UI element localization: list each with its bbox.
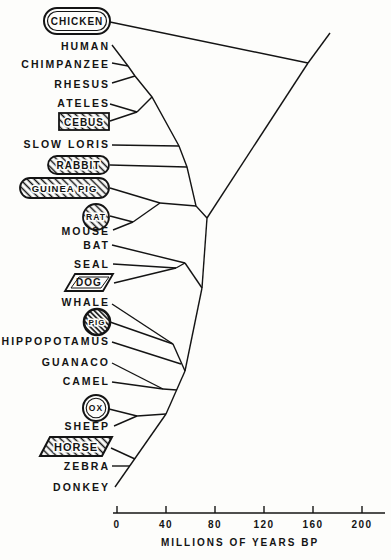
taxon-label-pig: PIG xyxy=(89,318,106,327)
branch-dog xyxy=(114,268,176,283)
taxon-label-horse: HORSE xyxy=(54,441,98,453)
branch-carnivore-node xyxy=(185,263,202,288)
branch-camelid-node xyxy=(163,389,177,390)
branch-seal xyxy=(113,264,176,268)
taxon-label-slow-loris: SLOW LORIS xyxy=(24,138,111,150)
time-axis: 0 40 80 120 160 200 MILLIONS OF YEARS BP xyxy=(113,506,385,548)
branch-mouse xyxy=(113,222,133,230)
taxon-label-hippopotamus: HIPPOPOTAMUS xyxy=(2,335,110,347)
taxon-label-ateles: ATELES xyxy=(57,97,110,109)
taxon-label-rhesus: RHESUS xyxy=(54,78,110,90)
axis-tick-labels: 0 40 80 120 160 200 xyxy=(113,519,372,530)
tick-label-200: 200 xyxy=(351,519,372,530)
branch-guinea-pig xyxy=(110,188,160,203)
axis-ticks xyxy=(117,506,362,513)
taxon-label-chimpanzee: CHIMPANZEE xyxy=(21,58,110,70)
tree-canvas: CHICKEN HUMAN CHIMPANZEE RHESUS ATELES C… xyxy=(0,0,391,560)
branch-root-stub xyxy=(308,33,330,63)
taxon-label-whale: WHALE xyxy=(62,296,111,308)
branch-pig xyxy=(110,322,173,344)
taxon-label-camel: CAMEL xyxy=(63,375,110,387)
taxon-label-cebus: CEBUS xyxy=(64,117,104,128)
taxon-label-guinea-pig: GUINEA PIG xyxy=(32,183,98,194)
branch-ox xyxy=(109,409,137,416)
branch-sheep xyxy=(114,416,137,426)
branch-chicken xyxy=(110,22,308,63)
tick-label-80: 80 xyxy=(208,519,222,530)
taxon-label-ox: OX xyxy=(89,403,103,413)
branch-bat xyxy=(112,245,185,263)
phylogenetic-tree-figure: CHICKEN HUMAN CHIMPANZEE RHESUS ATELES C… xyxy=(0,0,391,560)
tick-label-0: 0 xyxy=(113,519,120,530)
taxon-label-guanaco: GUANACO xyxy=(42,356,110,368)
branch-cebus xyxy=(110,112,137,121)
taxon-label-rat: RAT xyxy=(86,212,106,222)
tick-label-40: 40 xyxy=(159,519,173,530)
branch-trunk-upper xyxy=(207,63,308,218)
taxon-label-rabbit: RABBIT xyxy=(57,160,101,171)
branch-hippopotamus xyxy=(112,342,181,364)
branch-rodent-node xyxy=(160,203,196,206)
branch-rhesus xyxy=(112,76,135,83)
branch-whale-pig-node xyxy=(173,344,185,371)
axis-title: MILLIONS OF YEARS BP xyxy=(161,537,319,548)
branch-trunk-lower2 xyxy=(166,371,185,414)
branch-rabbit xyxy=(110,165,187,167)
taxon-label-sheep: SHEEP xyxy=(64,420,110,432)
branch-bovid-node xyxy=(137,414,166,416)
tree-branches xyxy=(109,22,330,487)
branch-trunk-to-donkey xyxy=(115,414,166,487)
branch-horse xyxy=(111,448,135,459)
branch-trunk-lower xyxy=(185,288,202,371)
taxon-label-zebra: ZEBRA xyxy=(64,460,110,472)
branch-primate-spine xyxy=(112,45,207,218)
branch-trunk-mid xyxy=(202,218,207,288)
branch-ateles xyxy=(110,104,137,112)
tick-label-120: 120 xyxy=(253,519,274,530)
branch-slow-loris xyxy=(112,145,179,146)
taxon-label-mouse: MOUSE xyxy=(61,225,110,237)
taxon-label-human: HUMAN xyxy=(61,40,110,52)
branch-rat xyxy=(110,216,133,222)
tick-label-160: 160 xyxy=(302,519,323,530)
taxon-label-seal: SEAL xyxy=(74,258,110,270)
branch-whale xyxy=(112,304,173,344)
taxon-label-dog: DOG xyxy=(76,277,102,288)
branch-seal-dog-node xyxy=(176,263,185,268)
taxon-label-donkey: DONKEY xyxy=(53,481,110,493)
taxon-label-bat: BAT xyxy=(83,239,110,251)
branch-rat-mouse-node xyxy=(133,203,160,222)
branch-nw-monkey-node xyxy=(137,97,152,112)
taxon-labels: CHICKEN HUMAN CHIMPANZEE RHESUS ATELES C… xyxy=(2,16,110,494)
taxon-label-chicken: CHICKEN xyxy=(51,16,104,27)
